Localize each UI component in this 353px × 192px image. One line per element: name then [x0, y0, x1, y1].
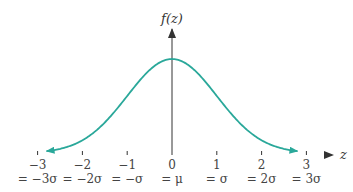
tick-label: 2: [258, 158, 266, 172]
y-axis-label: f(z): [160, 11, 183, 26]
tick-label: −1: [118, 158, 136, 172]
sigma-label: = 3σ: [292, 172, 322, 186]
tick-label: −2: [74, 158, 92, 172]
sigma-label: = σ: [206, 172, 228, 186]
sigma-label: = −2σ: [63, 172, 103, 186]
sigma-label: = −σ: [111, 172, 143, 186]
x-ticks: −3= −3σ−2= −2σ−1= −σ0= μ1= σ2= 2σ3= 3σ: [18, 151, 322, 186]
tick-label: 3: [303, 158, 311, 172]
tick-label: 1: [213, 158, 221, 172]
x-axis-label: z: [339, 147, 347, 162]
tick-label: −3: [29, 158, 47, 172]
normal-distribution-chart: f(z) z −3= −3σ−2= −2σ−1= −σ0= μ1= σ2= 2σ…: [0, 0, 353, 192]
sigma-label: = μ: [161, 172, 183, 186]
sigma-label: = −3σ: [18, 172, 58, 186]
tick-label: 0: [168, 158, 176, 172]
sigma-label: = 2σ: [247, 172, 277, 186]
